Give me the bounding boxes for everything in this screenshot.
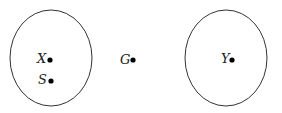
point-s-dot: [48, 78, 53, 83]
point-y: Y: [221, 51, 235, 66]
point-g: G: [120, 52, 136, 67]
point-y-label: Y: [221, 51, 231, 66]
point-s-label: S: [38, 72, 47, 87]
point-g-dot: [130, 57, 135, 62]
point-x-label: X: [36, 51, 47, 66]
point-x: X: [36, 51, 53, 66]
point-y-dot: [229, 57, 234, 62]
point-x-dot: [47, 57, 52, 62]
point-s: S: [38, 72, 54, 87]
point-g-label: G: [120, 52, 130, 67]
diagram-canvas: X S G Y: [0, 0, 282, 113]
